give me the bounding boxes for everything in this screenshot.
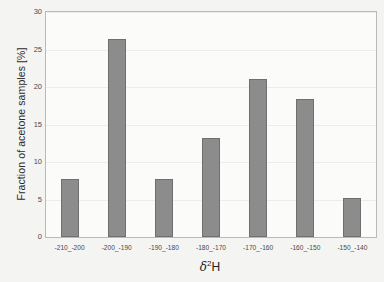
x-axis-title: δ2H [45,260,375,274]
y-axis-tick-label: 15 [22,119,42,128]
bar[interactable] [249,79,267,237]
bar-slot [46,12,93,237]
bar[interactable] [108,39,126,237]
y-axis-tick-label: 5 [22,194,42,203]
delta-symbol: δ [200,260,207,274]
bar-series [46,12,376,237]
y-axis-tick-label: 0 [22,232,42,241]
x-axis-tick-label: -170_-160 [235,244,282,251]
bar-slot [329,12,376,237]
hydrogen-symbol: H [212,260,221,274]
bar-slot [187,12,234,237]
y-axis-tick-label: 25 [22,44,42,53]
bar[interactable] [202,138,220,237]
x-axis-tick-labels: -210_-200-200_-190-190_-180-180_-170-170… [46,244,376,251]
bar-slot [140,12,187,237]
bar[interactable] [296,99,314,237]
x-axis-tick-label: -160_-150 [282,244,329,251]
x-axis-tick-label: -200_-190 [93,244,140,251]
bar[interactable] [61,179,79,238]
bar-slot [93,12,140,237]
plot-area [45,11,377,238]
x-axis-tick-label: -180_-170 [187,244,234,251]
x-axis-tick-label: -150_-140 [329,244,376,251]
y-axis-tick-label: 20 [22,82,42,91]
bar[interactable] [155,179,173,238]
x-axis-tick-label: -210_-200 [46,244,93,251]
bar-slot [282,12,329,237]
bar[interactable] [343,198,361,237]
x-axis-tick-label: -190_-180 [140,244,187,251]
y-axis-tick-label: 30 [22,7,42,16]
chart-figure: Fraction of acetone samples [%] 30 25 20… [0,0,384,282]
bar-slot [235,12,282,237]
y-axis-tick-labels: 30 25 20 15 10 5 0 [22,0,42,282]
y-axis-tick-label: 10 [22,157,42,166]
